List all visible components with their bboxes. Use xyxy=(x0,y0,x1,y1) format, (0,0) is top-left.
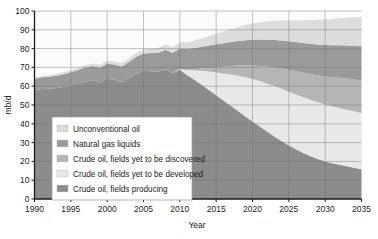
y-tick-label: 50 xyxy=(20,100,30,110)
y-tick-label: 70 xyxy=(20,62,30,72)
x-tick-label: 2035 xyxy=(352,204,371,214)
y-tick-label: 30 xyxy=(20,138,30,148)
legend-swatch-1 xyxy=(57,140,68,147)
x-tick-label: 1995 xyxy=(61,204,80,214)
legend-swatch-3 xyxy=(57,170,68,177)
x-tick-label: 2000 xyxy=(98,204,117,214)
x-tick-label: 2015 xyxy=(207,204,226,214)
x-tick-label: 2025 xyxy=(279,204,298,214)
x-tick-label: 2005 xyxy=(134,204,153,214)
legend-label-2: Crude oil, fields yet to be discovered xyxy=(73,155,205,164)
y-tick-label: 80 xyxy=(20,44,30,54)
legend-swatch-4 xyxy=(57,185,68,192)
y-tick-label: 60 xyxy=(20,81,30,91)
legend-label-4: Crude oil, fields producing xyxy=(73,185,168,194)
x-tick-label: 2010 xyxy=(170,204,189,214)
x-tick-label: 2020 xyxy=(243,204,262,214)
legend-label-3: Crude oil, fields yet to be developed xyxy=(73,170,204,179)
legend-swatch-2 xyxy=(57,155,68,162)
stacked-area-chart: 0102030405060708090100 19901995200020052… xyxy=(0,0,378,239)
x-tick-label: 2030 xyxy=(316,204,335,214)
legend-label-0: Unconventional oil xyxy=(73,125,140,134)
y-tick-label: 0 xyxy=(25,194,30,204)
y-tick-label: 20 xyxy=(20,156,30,166)
x-tick-label: 1990 xyxy=(25,204,44,214)
y-tick-label: 100 xyxy=(15,6,29,16)
chart-figure: 0102030405060708090100 19901995200020052… xyxy=(0,0,378,239)
legend-label-1: Natural gas liquids xyxy=(73,140,140,149)
legend-swatch-0 xyxy=(57,125,68,132)
y-tick-label: 40 xyxy=(20,119,30,129)
x-axis-label: Year xyxy=(188,220,205,230)
chart-legend: Unconventional oilNatural gas liquidsCru… xyxy=(52,117,205,200)
y-tick-label: 10 xyxy=(20,175,30,185)
y-tick-label: 90 xyxy=(20,25,30,35)
y-axis-label: mb/d xyxy=(3,95,13,114)
